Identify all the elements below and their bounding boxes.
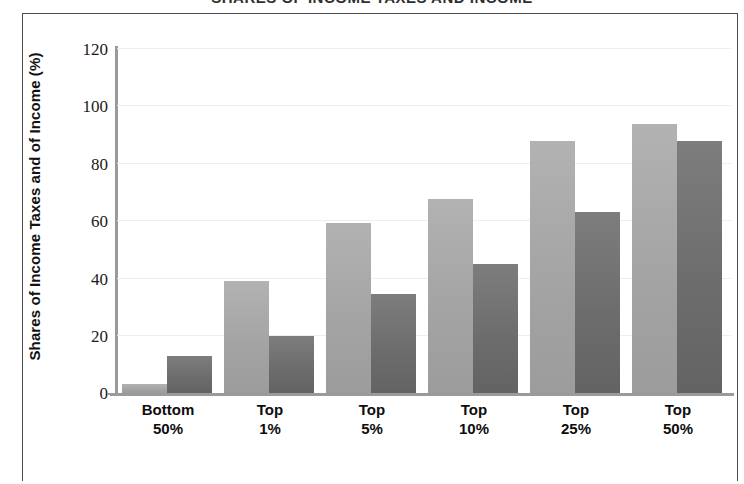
- x-category-top-5-line1: Top: [359, 401, 385, 418]
- bar-income-taxes-top-1: [224, 281, 269, 393]
- x-category-bottom-50: Bottom 50%: [117, 400, 219, 438]
- x-category-top-1: Top 1%: [219, 400, 321, 438]
- bar-income-taxes-top-50: [632, 124, 677, 393]
- x-category-top-50-line1: Top: [665, 401, 691, 418]
- bar-income-top-1: [269, 336, 314, 394]
- chart-title-cropped: SHARES OF INCOME TAXES AND INCOME: [0, 0, 744, 13]
- gridline-100: [117, 105, 731, 106]
- y-tick-20: 20: [64, 327, 108, 347]
- x-category-top-50: Top 50%: [627, 400, 729, 438]
- x-category-top-25: Top 25%: [525, 400, 627, 438]
- bar-income-taxes-top-10: [428, 199, 473, 393]
- bar-income-top-50: [677, 141, 722, 393]
- plot-area: [117, 48, 731, 393]
- x-category-top-50-line2: 50%: [627, 419, 729, 438]
- x-category-top-25-line2: 25%: [525, 419, 627, 438]
- bar-income-taxes-top-25: [530, 141, 575, 393]
- x-category-top-10: Top 10%: [423, 400, 525, 438]
- y-axis-title: Shares of Income Taxes and of Income (%): [26, 27, 43, 387]
- x-category-bottom-50-line2: 50%: [117, 419, 219, 438]
- x-category-top-5: Top 5%: [321, 400, 423, 438]
- y-tick-40: 40: [64, 270, 108, 290]
- x-axis-line: [110, 393, 734, 396]
- x-category-bottom-50-line1: Bottom: [142, 401, 195, 418]
- bar-income-top-5: [371, 294, 416, 393]
- y-tick-60: 60: [64, 212, 108, 232]
- x-category-top-10-line1: Top: [461, 401, 487, 418]
- y-axis-zero-tick: [108, 393, 117, 395]
- bar-income-bottom-50: [167, 356, 212, 393]
- y-axis-tick-labels: 120 100 80 60 40 20 0: [58, 0, 108, 484]
- chart-title-text: SHARES OF INCOME TAXES AND INCOME: [0, 0, 744, 6]
- bar-income-taxes-bottom-50: [122, 384, 167, 393]
- x-category-top-5-line2: 5%: [321, 419, 423, 438]
- y-tick-0: 0: [64, 384, 108, 404]
- y-tick-100: 100: [64, 97, 108, 117]
- y-tick-80: 80: [64, 155, 108, 175]
- y-tick-120: 120: [64, 40, 108, 60]
- gridline-120: [117, 48, 731, 49]
- x-category-top-10-line2: 10%: [423, 419, 525, 438]
- x-category-top-1-line1: Top: [257, 401, 283, 418]
- bar-income-taxes-top-5: [326, 223, 371, 393]
- x-category-top-25-line1: Top: [563, 401, 589, 418]
- bar-income-top-10: [473, 264, 518, 393]
- bar-income-top-25: [575, 212, 620, 393]
- x-category-top-1-line2: 1%: [219, 419, 321, 438]
